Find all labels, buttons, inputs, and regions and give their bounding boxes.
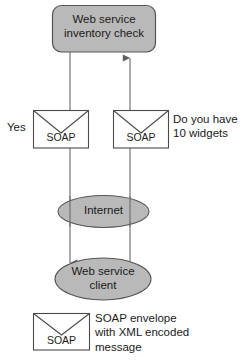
legend-caption-line2: with XML encoded: [95, 325, 247, 339]
request-annotation-line1: Do you have: [173, 112, 249, 126]
legend-caption-line1: SOAP envelope: [95, 311, 247, 325]
soap-envelope-left: [34, 111, 89, 149]
legend-caption: SOAP envelope with XML encoded message: [95, 311, 247, 354]
internet-node: [58, 196, 149, 228]
diagram-canvas: [0, 0, 250, 361]
service-node: [53, 6, 156, 53]
soap-web-service-diagram: Web service inventory check Internet Web…: [0, 0, 250, 361]
soap-envelope-legend: [34, 314, 90, 351]
legend-caption-line3: message: [95, 340, 247, 354]
response-annotation: Yes: [7, 120, 33, 134]
soap-envelope-right: [114, 111, 169, 149]
request-annotation: Do you have 10 widgets: [173, 112, 249, 141]
client-node: [55, 258, 151, 300]
request-annotation-line2: 10 widgets: [173, 126, 249, 140]
